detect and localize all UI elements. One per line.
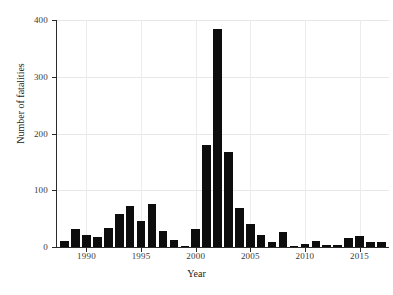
bar [235, 208, 244, 247]
bar [257, 235, 266, 247]
bar [344, 238, 353, 247]
x-tick-label: 2005 [241, 252, 260, 261]
y-tick-mark [52, 77, 56, 78]
x-tick-mark [250, 248, 251, 252]
bar [355, 236, 364, 247]
gridline-vertical [86, 20, 87, 247]
x-axis-line [56, 247, 389, 248]
x-tick-mark [305, 248, 306, 252]
gridline-vertical [250, 20, 251, 247]
gridline-horizontal [57, 77, 389, 78]
y-tick-mark [52, 190, 56, 191]
x-tick-mark [360, 248, 361, 252]
bar [246, 224, 255, 247]
gridline-horizontal [57, 20, 389, 21]
bar [191, 229, 200, 247]
y-tick-label: 100 [8, 186, 48, 195]
gridline-vertical [360, 20, 361, 247]
x-tick-mark [86, 248, 87, 252]
bar [159, 231, 168, 247]
x-axis-title: Year [0, 268, 393, 279]
y-tick-label: 0 [8, 243, 48, 252]
gridline-horizontal [57, 134, 389, 135]
bar [202, 145, 211, 247]
gridline-vertical [305, 20, 306, 247]
bar [93, 237, 102, 247]
bar [115, 214, 124, 247]
gridline-horizontal [57, 190, 389, 191]
x-tick-label: 2000 [186, 252, 205, 261]
y-tick-label: 400 [8, 16, 48, 25]
x-tick-label: 2010 [296, 252, 315, 261]
bar-chart: 0100200300400 199019952000200520102015 N… [0, 0, 393, 295]
bar [82, 235, 91, 247]
bar [148, 204, 157, 247]
y-axis-title: Number of fatalities [15, 34, 26, 174]
bar [126, 206, 135, 247]
y-tick-mark [52, 134, 56, 135]
y-tick-mark [52, 20, 56, 21]
bar [213, 29, 222, 247]
bar [104, 228, 113, 247]
bar [71, 229, 80, 247]
x-tick-label: 2015 [350, 252, 369, 261]
bar [137, 221, 146, 247]
bar [224, 152, 233, 247]
plot-area [57, 20, 389, 247]
gridline-vertical [141, 20, 142, 247]
y-tick-mark [52, 247, 56, 248]
x-tick-mark [141, 248, 142, 252]
bar [170, 240, 179, 247]
x-tick-label: 1990 [77, 252, 96, 261]
gridline-vertical [196, 20, 197, 247]
y-axis-line [56, 20, 57, 248]
x-tick-mark [196, 248, 197, 252]
x-tick-label: 1995 [132, 252, 151, 261]
bar [279, 232, 288, 247]
